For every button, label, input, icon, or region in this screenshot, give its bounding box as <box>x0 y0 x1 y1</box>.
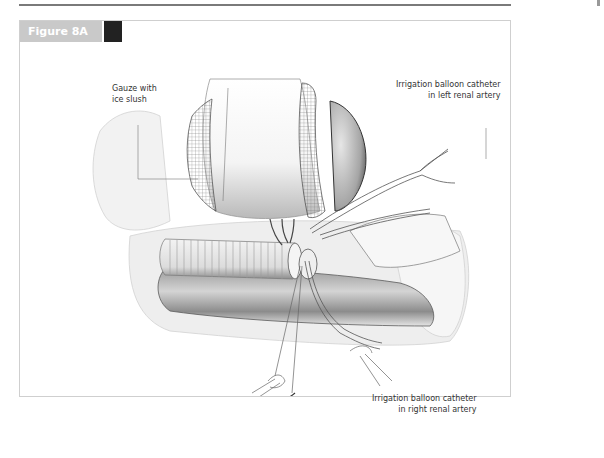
label-left-catheter-line2: in left renal artery <box>396 90 500 101</box>
page-edge-mark <box>597 0 600 6</box>
top-rule <box>19 4 511 6</box>
figure-title-accent <box>104 21 122 42</box>
label-right-catheter-line1: Irrigation balloon catheter <box>372 393 476 404</box>
ribbed-graft <box>160 239 302 279</box>
label-right-catheter-line2: in right renal artery <box>372 404 476 415</box>
figure-title: Figure 8A <box>20 21 102 42</box>
label-left-catheter: Irrigation balloon catheter in left rena… <box>396 79 500 101</box>
label-gauze-line2: ice slush <box>112 94 157 105</box>
label-gauze: Gauze with ice slush <box>112 83 157 105</box>
kidney <box>330 101 366 211</box>
figure-frame: Figure 8A Gauze with ice slush Irrigatio… <box>19 20 511 397</box>
label-gauze-line1: Gauze with <box>112 83 157 94</box>
surgical-illustration <box>20 21 510 396</box>
label-right-catheter: Irrigation balloon catheter in right ren… <box>372 393 476 415</box>
label-left-catheter-line1: Irrigation balloon catheter <box>396 79 500 90</box>
